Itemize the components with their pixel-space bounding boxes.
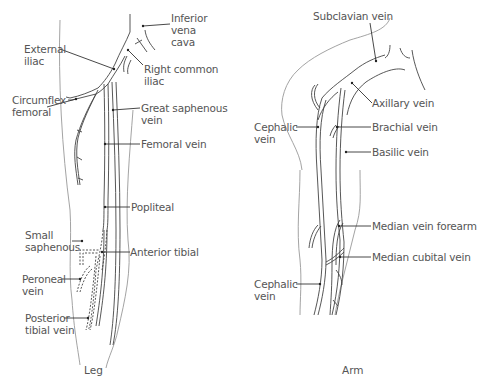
label-cephalic-vein-lower: Cephalic vein [254, 278, 298, 302]
label-right-common-iliac: Right common iliac [144, 63, 218, 87]
label-great-saphenous-vein: Great saphenous vein [141, 102, 227, 126]
label-basilic-vein: Basilic vein [372, 146, 429, 158]
label-median-vein-forearm: Median vein forearm [372, 220, 477, 232]
arm-drawing [282, 18, 425, 315]
label-peroneal-vein: Peroneal vein [22, 273, 66, 297]
label-inferior-vena-cava: Inferior vena cava [171, 12, 207, 48]
caption-arm: Arm [342, 364, 364, 376]
label-small-saphenous: Small saphenous [25, 229, 80, 253]
label-popliteal: Popliteal [131, 201, 174, 213]
label-anterior-tibial: Anterior tibial [130, 246, 199, 258]
label-brachial-vein: Brachial vein [372, 121, 438, 133]
label-circumflex-femoral: Circumflex femoral [12, 94, 66, 118]
label-subclavian-vein: Subclavian vein [313, 10, 393, 22]
label-external-iliac: External iliac [24, 43, 66, 67]
label-femoral-vein: Femoral vein [141, 138, 206, 150]
label-median-cubital-vein: Median cubital vein [372, 251, 471, 263]
caption-leg: Leg [84, 364, 103, 376]
label-cephalic-vein-upper: Cephalic vein [254, 121, 298, 145]
label-axillary-vein: Axillary vein [372, 97, 434, 109]
label-posterior-tibial-vein: Posterior tibial vein [25, 312, 74, 336]
